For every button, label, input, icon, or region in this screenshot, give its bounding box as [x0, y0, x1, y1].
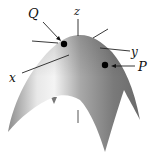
diag-axis: [93, 29, 108, 38]
point-q: [61, 41, 67, 47]
point-p: [102, 62, 108, 68]
label-x: x: [9, 71, 16, 85]
label-q: Q: [28, 6, 39, 21]
y-axis-back: [32, 41, 58, 43]
paraboloid-diagram: Q z y P x: [0, 0, 156, 155]
label-y: y: [130, 45, 138, 59]
q-leader: [43, 22, 59, 39]
label-z: z: [73, 5, 80, 18]
label-p: P: [137, 59, 147, 74]
